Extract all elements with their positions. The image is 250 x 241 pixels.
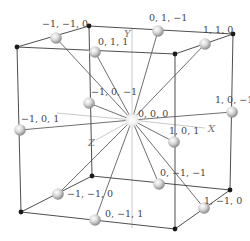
atom-sphere bbox=[83, 97, 95, 109]
atom-label: −1, 0, −1 bbox=[91, 86, 137, 97]
cuboctahedral-lattice-diagram: Y X Z 0, 0, 0 −1, −1, 00, 1, 10, 1, −11,… bbox=[0, 0, 250, 241]
diagram-canvas: Y X Z 0, 0, 0 −1, −1, 00, 1, 10, 1, −11,… bbox=[0, 0, 250, 241]
corner-dot bbox=[19, 210, 24, 215]
atom-sphere bbox=[50, 32, 62, 44]
atom-sphere bbox=[52, 188, 64, 200]
x-axis-label: X bbox=[207, 123, 216, 134]
atom-sphere bbox=[168, 136, 180, 148]
center-atom: 0, 0, 0 bbox=[125, 108, 168, 127]
atom-label: −1, 0, 1 bbox=[21, 113, 59, 124]
bond-line bbox=[132, 120, 174, 142]
corner-dot bbox=[15, 45, 20, 50]
bond-line bbox=[58, 120, 132, 194]
bond-line bbox=[95, 120, 132, 220]
corner-dot bbox=[173, 52, 178, 57]
atom-sphere bbox=[89, 46, 101, 58]
atom-sphere bbox=[14, 124, 26, 136]
atom-label: 0, 1, −1 bbox=[149, 12, 187, 23]
atom-label: 0, 1, 1 bbox=[98, 36, 128, 47]
atom-sphere bbox=[153, 178, 165, 190]
center-atom-glow bbox=[125, 113, 139, 127]
atom-label: 1, 0, −1 bbox=[215, 94, 250, 105]
atom-label: 0, −1, 1 bbox=[105, 208, 143, 219]
corner-dot bbox=[173, 227, 178, 232]
neg-x-axis-line bbox=[57, 113, 132, 120]
coordination-bonds bbox=[20, 31, 232, 220]
bond-line bbox=[132, 120, 159, 184]
atom-sphere bbox=[226, 106, 238, 118]
atom-label: 1, −1, 0 bbox=[204, 195, 242, 206]
atom-label: 1, 1, 0 bbox=[203, 24, 233, 35]
atom-sphere bbox=[152, 25, 164, 37]
center-atom-label: 0, 0, 0 bbox=[138, 108, 168, 119]
atom-label: 0, −1, −1 bbox=[160, 167, 206, 178]
corner-dot bbox=[228, 188, 233, 193]
atom-label: −1, −1, 0 bbox=[42, 18, 88, 29]
atom-label: −1, −1, 0 bbox=[67, 188, 113, 199]
corner-dot bbox=[90, 174, 95, 179]
atom-label: 1, 0, 1 bbox=[169, 125, 199, 136]
atom-sphere bbox=[199, 38, 211, 50]
atom-sphere bbox=[89, 214, 101, 226]
